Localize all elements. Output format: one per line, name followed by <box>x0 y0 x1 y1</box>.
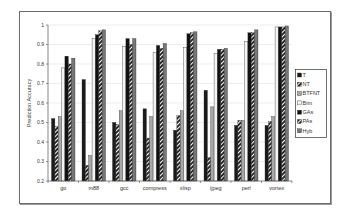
legend-swatch-pas <box>298 120 302 124</box>
bar-bim-perl <box>245 42 248 181</box>
bar-hyb-m88 <box>102 30 105 181</box>
legend-swatch-t <box>298 73 302 77</box>
y-tick-label: 0.5 <box>37 119 44 125</box>
bar-t-ijpeg <box>204 90 207 181</box>
x-category-label: compress <box>143 185 167 191</box>
x-axis: gom88gcccompressxlispijpegperlvortex <box>48 181 292 191</box>
bar-pas-vortex <box>282 27 285 181</box>
bar-pas-go <box>68 64 71 181</box>
bar-btfnt-gcc <box>119 111 122 181</box>
bar-t-vortex <box>265 125 268 181</box>
bar-t-perl <box>235 125 238 181</box>
legend-label-gas: GAs <box>303 109 314 115</box>
bar-hyb-vortex <box>285 26 288 181</box>
bar-gas-m88 <box>95 35 98 181</box>
bar-btfnt-perl <box>241 121 244 181</box>
bar-gas-ijpeg <box>217 49 220 181</box>
bar-nt-compress <box>146 138 149 181</box>
bar-nt-m88 <box>85 165 88 181</box>
bar-btfnt-vortex <box>272 117 275 181</box>
bar-pas-ijpeg <box>221 49 224 181</box>
bar-hyb-ijpeg <box>224 48 227 181</box>
bar-btfnt-compress <box>150 117 153 181</box>
legend-swatch-nt <box>298 82 302 86</box>
bar-bim-compress <box>153 52 156 181</box>
x-category-label: vortex <box>269 185 284 191</box>
y-tick-label: 0.3 <box>37 158 44 164</box>
bar-hyb-compress <box>163 44 166 181</box>
legend-swatch-bim <box>298 101 302 105</box>
y-axis: 0.20.30.40.50.60.70.80.91 <box>37 22 48 184</box>
bar-btfnt-xlisp <box>180 111 183 181</box>
bar-gas-perl <box>248 33 251 181</box>
bar-btfnt-m88 <box>89 156 92 181</box>
x-category-label: go <box>60 185 66 191</box>
bar-pas-gcc <box>129 45 132 182</box>
bar-bim-vortex <box>275 27 278 181</box>
x-category-label: m88 <box>88 185 99 191</box>
bar-hyb-xlisp <box>194 32 197 181</box>
bar-gas-go <box>65 56 68 181</box>
y-axis-label: Prediction Accuracy <box>26 79 32 128</box>
y-tick-label: 0.4 <box>37 139 44 145</box>
legend-swatch-btfnt <box>298 92 302 96</box>
bar-nt-gcc <box>116 124 119 181</box>
bar-nt-vortex <box>268 122 271 181</box>
bar-nt-ijpeg <box>207 158 210 181</box>
bar-btfnt-go <box>58 117 61 181</box>
bar-btfnt-ijpeg <box>211 107 214 181</box>
bar-bim-m88 <box>92 39 95 181</box>
x-category-label: ijpeg <box>210 185 222 191</box>
bar-chart: 0.20.30.40.50.60.70.80.91 gom88gcccompre… <box>0 0 347 216</box>
bar-gas-vortex <box>278 27 281 181</box>
y-tick-label: 0.6 <box>37 100 44 106</box>
bar-hyb-gcc <box>133 39 136 181</box>
y-tick-label: 0.2 <box>37 178 44 184</box>
bar-pas-m88 <box>99 31 102 181</box>
legend-swatch-gas <box>298 110 302 114</box>
bar-pas-compress <box>160 48 163 181</box>
bar-bim-ijpeg <box>214 53 217 181</box>
y-tick-label: 0.7 <box>37 80 44 86</box>
x-category-label: xlisp <box>180 185 191 191</box>
bar-bim-gcc <box>123 46 126 181</box>
legend-label-bim: Bim <box>303 100 313 106</box>
legend-label-pas: PAs <box>303 118 313 124</box>
bar-t-compress <box>143 109 146 181</box>
bar-pas-xlisp <box>190 33 193 181</box>
bar-gas-xlisp <box>187 34 190 181</box>
bar-nt-perl <box>238 121 241 181</box>
bar-pas-perl <box>251 33 254 181</box>
legend-label-btfnt: BTFNT <box>303 90 321 96</box>
y-tick-label: 1 <box>41 22 44 28</box>
x-category-label: gcc <box>120 185 129 191</box>
bar-bim-xlisp <box>184 47 187 181</box>
bar-t-gcc <box>113 123 116 182</box>
bar-bim-go <box>62 68 65 181</box>
y-tick-label: 0.9 <box>37 41 44 47</box>
bar-gas-gcc <box>126 39 129 181</box>
bar-t-go <box>52 119 55 181</box>
bar-nt-xlisp <box>177 116 180 181</box>
x-category-label: perl <box>242 185 251 191</box>
bar-nt-go <box>55 126 58 181</box>
bar-t-m88 <box>82 80 85 181</box>
legend-label-nt: NT <box>303 81 311 87</box>
y-tick-label: 0.8 <box>37 61 44 67</box>
bar-t-xlisp <box>174 130 177 181</box>
legend-label-hyb: Hyb <box>303 128 313 134</box>
bars <box>52 26 289 181</box>
bar-hyb-perl <box>255 30 258 181</box>
bar-hyb-go <box>72 58 75 181</box>
legend-swatch-hyb <box>298 129 302 133</box>
legend: TNTBTFNTBimGAsPAsHyb <box>296 70 327 138</box>
bar-gas-compress <box>156 45 159 181</box>
